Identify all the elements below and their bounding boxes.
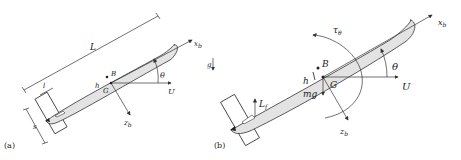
label-g: g	[207, 61, 212, 69]
buoyancy-point	[317, 67, 320, 70]
label-l: l	[43, 82, 45, 90]
label-G: G	[103, 87, 109, 95]
label-zb: zb	[123, 119, 132, 128]
label-B: B	[321, 59, 329, 69]
panel-b-tag: (b)	[214, 141, 225, 150]
h-dimension	[313, 72, 315, 80]
label-G: G	[330, 80, 337, 90]
panel-b: Lf xb U zb θ τθ B G h mg (b)	[214, 15, 447, 150]
buoyancy-point	[106, 76, 109, 79]
label-tau: τθ	[333, 25, 342, 36]
label-xb: xb	[194, 40, 202, 49]
label-U: U	[168, 87, 175, 96]
label-L: L	[89, 42, 96, 52]
label-h: h	[303, 76, 309, 86]
panel-a: L l s xb U zb θ B G h g (a)	[4, 13, 213, 150]
panel-a-tag: (a)	[4, 141, 15, 150]
label-U: U	[402, 81, 411, 92]
diagram-canvas: L l s xb U zb θ B G h g (a)	[0, 0, 461, 160]
gravity-point	[110, 82, 113, 85]
figure: L l s xb U zb θ B G h g (a)	[0, 0, 461, 160]
label-Lf: Lf	[258, 99, 269, 111]
label-theta: θ	[392, 61, 398, 72]
label-h: h	[95, 82, 100, 90]
label-theta: θ	[160, 71, 165, 80]
length-dimension-line	[24, 16, 158, 90]
label-zb: zb	[339, 127, 348, 137]
label-xb: xb	[438, 18, 447, 28]
xb-axis	[111, 40, 192, 83]
xb-axis	[323, 15, 432, 77]
label-B: B	[110, 70, 116, 78]
label-s: s	[33, 123, 37, 131]
label-mg: mg	[303, 89, 318, 99]
